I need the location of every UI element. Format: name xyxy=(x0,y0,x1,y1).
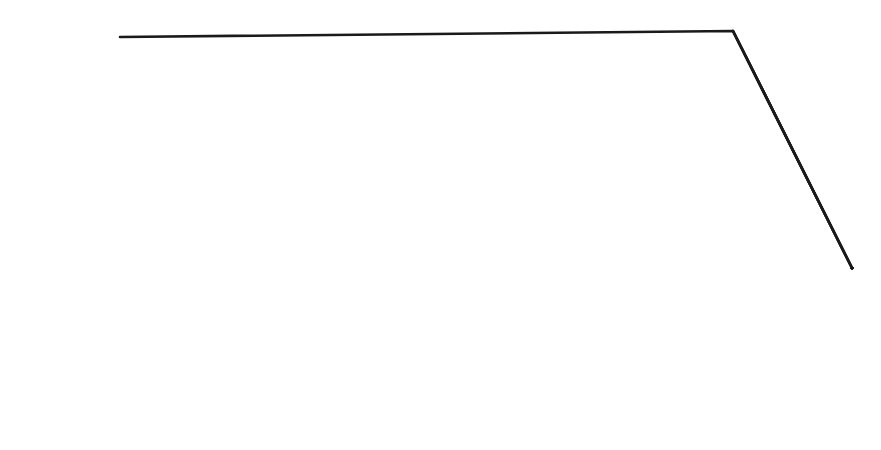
puzzle-outer-border-visible xyxy=(120,31,852,268)
puzzle-diagram xyxy=(0,0,881,450)
puzzle-right-edge-final xyxy=(733,31,852,268)
